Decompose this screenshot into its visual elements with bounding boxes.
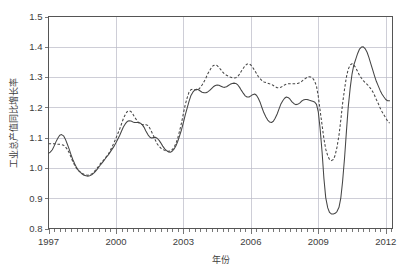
chart-container: 0.80.91.01.11.21.31.41.51997200020032006… [0,0,407,270]
y-tick-label: 1.2 [29,102,42,113]
line-chart: 0.80.91.01.11.21.31.41.51997200020032006… [0,0,407,270]
y-tick-label: 1.4 [29,41,42,52]
x-tick-label: 2006 [240,236,261,247]
y-tick-label: 1.0 [29,162,42,173]
tick-labels: 0.80.91.01.11.21.31.41.51997200020032006… [29,11,396,247]
tick-marks [45,18,392,234]
series-line-1 [49,47,390,214]
x-tick-label: 1997 [38,236,59,247]
series-layer [49,47,390,214]
y-tick-label: 0.8 [29,223,42,234]
x-tick-label: 2009 [308,236,329,247]
y-tick-label: 0.9 [29,193,42,204]
x-tick-label: 2012 [375,236,396,247]
x-axis-title: 年份 [212,254,230,265]
x-tick-label: 2000 [105,236,126,247]
y-tick-label: 1.1 [29,132,42,143]
y-tick-label: 1.3 [29,71,42,82]
x-tick-label: 2003 [173,236,194,247]
y-axis-title: 工业总产值同比增长率 [8,78,19,168]
series-line-2 [49,64,390,175]
y-tick-label: 1.5 [29,11,42,22]
